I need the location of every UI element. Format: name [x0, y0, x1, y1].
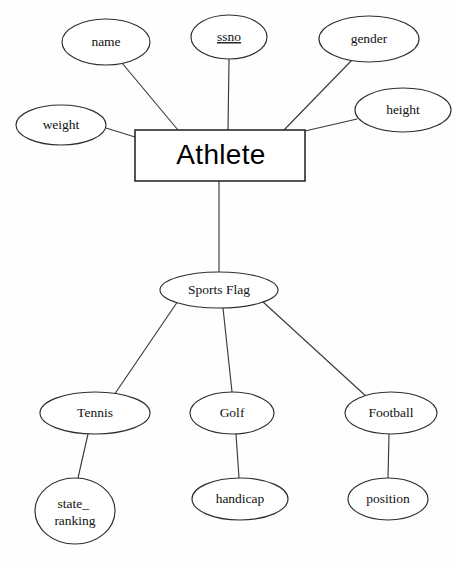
- attribute-node-gender[interactable]: gender: [319, 16, 419, 62]
- attribute-node-name[interactable]: name: [62, 19, 150, 65]
- attribute-label-weight: weight: [43, 117, 80, 132]
- edge-sports-flag-to-football: [262, 301, 368, 398]
- relationship-label-sports-flag: Sports Flag: [188, 282, 250, 297]
- edge-football-to-position: [388, 434, 389, 478]
- edge-sports-flag-to-golf: [223, 308, 232, 392]
- attribute-node-position[interactable]: position: [348, 478, 428, 520]
- attribute-label-ssno: ssno: [217, 29, 241, 44]
- attribute-label-height: height: [386, 102, 420, 117]
- entity-node-athlete[interactable]: Athlete: [135, 130, 305, 181]
- edge-golf-to-handicap: [236, 434, 239, 478]
- er-diagram-canvas: name ssno gender weight height Athlete S…: [0, 0, 455, 565]
- edge-name-to-athlete: [122, 63, 178, 130]
- edge-sports-flag-to-tennis: [112, 301, 178, 398]
- attribute-label-gender: gender: [351, 31, 388, 46]
- edge-weight-to-athlete: [106, 128, 135, 137]
- attribute-label-state-ranking-line2: ranking: [54, 513, 95, 528]
- attribute-label-state-ranking-line1: state_: [58, 496, 90, 511]
- sport-node-golf[interactable]: Golf: [190, 392, 274, 434]
- sport-label-tennis: Tennis: [77, 405, 113, 420]
- sport-label-football: Football: [368, 405, 413, 420]
- attribute-label-name: name: [91, 34, 120, 49]
- er-diagram-svg: name ssno gender weight height Athlete S…: [0, 0, 455, 565]
- attribute-node-ssno[interactable]: ssno: [191, 15, 267, 59]
- attribute-node-handicap[interactable]: handicap: [192, 478, 288, 520]
- edge-gender-to-athlete: [284, 60, 352, 130]
- relationship-node-sports-flag[interactable]: Sports Flag: [160, 272, 278, 308]
- entity-label-athlete: Athlete: [176, 139, 265, 170]
- attribute-label-position: position: [366, 491, 410, 506]
- attribute-node-height[interactable]: height: [355, 88, 451, 132]
- sport-node-tennis[interactable]: Tennis: [40, 392, 150, 434]
- attribute-ellipse-state-ranking[interactable]: [35, 478, 115, 544]
- edge-height-to-athlete: [305, 119, 357, 131]
- attribute-node-weight[interactable]: weight: [16, 105, 106, 145]
- sport-label-golf: Golf: [220, 405, 245, 420]
- edge-tennis-to-state-ranking: [78, 434, 88, 478]
- attribute-node-state-ranking[interactable]: state_ ranking: [35, 478, 115, 544]
- edge-ssno-to-athlete: [228, 59, 229, 130]
- sport-node-football[interactable]: Football: [345, 392, 437, 434]
- attribute-label-handicap: handicap: [216, 491, 265, 506]
